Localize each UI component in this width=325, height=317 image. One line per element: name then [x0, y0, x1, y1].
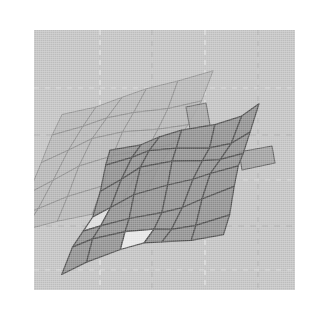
plot-area — [34, 30, 295, 290]
figure-canvas — [0, 0, 325, 317]
surface-mesh-scene — [34, 30, 295, 290]
upper-notch — [186, 103, 210, 129]
